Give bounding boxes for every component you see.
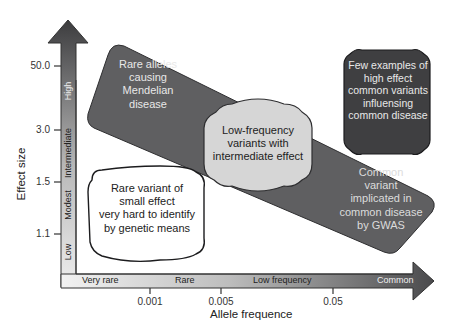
- gwas-line: Common: [326, 166, 436, 179]
- label-low-frequency: Low-frequency variants with intermediate…: [204, 124, 312, 164]
- y-tick-3: 3.0: [20, 124, 50, 135]
- x-band-low-frequency: Low frequency: [253, 275, 312, 285]
- y-tick-1-5: 1.5: [20, 176, 50, 187]
- x-tick-0-05: 0.05: [313, 296, 353, 307]
- x-band-common: Common: [377, 275, 414, 285]
- gwas-line: common disease: [326, 206, 436, 219]
- rare-small-line: very hard to identify: [88, 208, 206, 221]
- low-frequency-line: Low-frequency: [204, 124, 312, 137]
- y-tick-50: 50.0: [20, 60, 50, 71]
- x-tick-0-005: 0.005: [201, 296, 241, 307]
- mendelian-line: disease: [98, 98, 198, 111]
- label-rare-small-effect: Rare variant of small effect very hard t…: [88, 182, 206, 235]
- label-few-examples: Few examples of high effect common varia…: [338, 59, 438, 122]
- label-mendelian: Rare alleles causing Mendelian disease: [98, 58, 198, 111]
- mendelian-line: causing: [98, 71, 198, 84]
- rare-small-line: by genetic means: [88, 222, 206, 235]
- x-axis-title: Allele frequence: [210, 308, 292, 320]
- y-tick-1-1: 1.1: [20, 228, 50, 239]
- variant-effect-diagram: Effect size 50.0 3.0 1.5 1.1 High Interm…: [0, 0, 458, 332]
- gwas-line: implicated in: [326, 192, 436, 205]
- x-band-very-rare: Very rare: [82, 275, 119, 285]
- y-band-low: Low: [63, 217, 73, 287]
- x-ticks: [150, 288, 333, 294]
- low-frequency-line: intermediate effect: [204, 150, 312, 163]
- gwas-line: by GWAS: [326, 219, 436, 232]
- few-examples-line: high effect: [338, 72, 438, 85]
- few-examples-line: common variants: [338, 84, 438, 97]
- y-ticks: [54, 66, 61, 234]
- few-examples-line: common disease: [338, 109, 438, 122]
- few-examples-line: influensing: [338, 97, 438, 110]
- rare-small-line: Rare variant of: [88, 182, 206, 195]
- rare-small-line: small effect: [88, 195, 206, 208]
- mendelian-line: Mendelian: [98, 84, 198, 97]
- x-tick-0-001: 0.001: [130, 296, 170, 307]
- gwas-line: variant: [326, 179, 436, 192]
- y-band-high: High: [63, 56, 73, 126]
- few-examples-line: Few examples of: [338, 59, 438, 72]
- label-gwas: Common variant implicated in common dise…: [326, 166, 436, 232]
- mendelian-line: Rare alleles: [98, 58, 198, 71]
- low-frequency-line: variants with: [204, 137, 312, 150]
- y-axis-title: Effect size: [15, 139, 27, 209]
- x-band-rare: Rare: [175, 275, 195, 285]
